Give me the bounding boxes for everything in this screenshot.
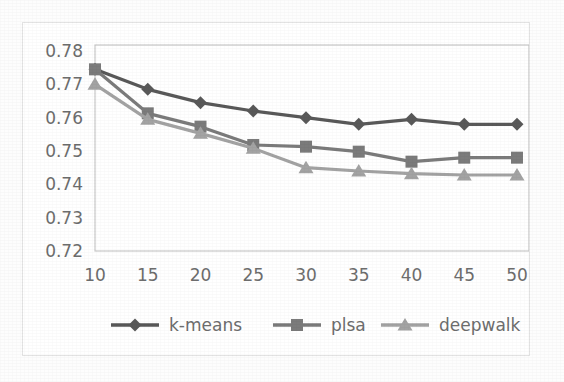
y-tick-label: 0.74 [45,174,83,194]
marker-square [291,319,303,331]
legend-label: k-means [169,315,242,335]
marker-diamond [458,118,471,131]
legend-label: plsa [331,315,366,335]
marker-diamond [129,319,142,332]
x-tick-label: 15 [137,265,159,285]
legend-item-deepwalk[interactable]: deepwalk [381,315,521,335]
marker-square [89,63,101,75]
x-tick-label: 50 [506,265,528,285]
x-tick-label: 40 [401,265,423,285]
y-tick-label: 0.73 [45,208,83,228]
x-tick-label: 35 [348,265,370,285]
y-tick-label: 0.77 [45,74,83,94]
y-tick-label: 0.76 [45,108,83,128]
legend-item-plsa[interactable]: plsa [273,315,366,335]
x-tick-label: 30 [295,265,317,285]
marker-diamond [141,83,154,96]
marker-diamond [300,111,313,124]
chart-figure: 0.780.770.760.750.740.730.72 10152025303… [0,0,564,382]
marker-diamond [352,118,365,131]
y-axis-tick-labels: 0.780.770.760.750.740.730.72 [45,41,83,261]
x-tick-label: 10 [84,265,106,285]
x-tick-label: 25 [242,265,264,285]
x-tick-label: 45 [453,265,475,285]
marker-diamond [247,105,260,118]
data-series-layer [88,63,525,181]
marker-triangle [88,77,103,90]
chart-legend: k-meansplsadeepwalk [111,315,521,335]
line-chart-plot: 0.780.770.760.750.740.730.72 10152025303… [23,23,529,355]
chart-frame: 0.780.770.760.750.740.730.72 10152025303… [22,22,530,356]
legend-item-k-means[interactable]: k-means [111,315,242,335]
series-deepwalk [88,77,525,180]
y-tick-label: 0.72 [45,241,83,261]
x-axis-tick-labels: 101520253035404550 [84,265,528,285]
marker-diamond [405,113,418,126]
y-tick-label: 0.75 [45,141,83,161]
y-tick-label: 0.78 [45,41,83,61]
marker-square [511,152,523,164]
marker-square [406,156,418,168]
marker-diamond [511,118,524,131]
marker-square [458,152,470,164]
marker-diamond [194,96,207,109]
legend-label: deepwalk [439,315,521,335]
marker-square [353,146,365,158]
x-tick-label: 20 [190,265,212,285]
marker-square [300,141,312,153]
